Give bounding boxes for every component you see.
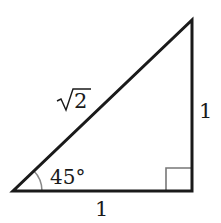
triangle-outline: [13, 20, 192, 191]
triangle-diagram: 2 1 45° 1: [0, 0, 221, 223]
vertical-leg-label: 1: [199, 99, 212, 123]
right-angle-marker: [166, 168, 192, 191]
hypotenuse-radicand: 2: [74, 89, 87, 113]
horizontal-leg-label: 1: [95, 197, 108, 221]
hypotenuse-label: 2: [57, 89, 91, 113]
angle-arc: [34, 171, 43, 192]
angle-label: 45°: [50, 165, 85, 189]
